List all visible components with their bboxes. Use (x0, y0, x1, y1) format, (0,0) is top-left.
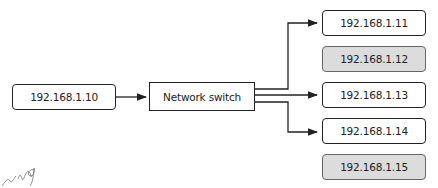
handwritten-annotation (0, 0, 438, 188)
